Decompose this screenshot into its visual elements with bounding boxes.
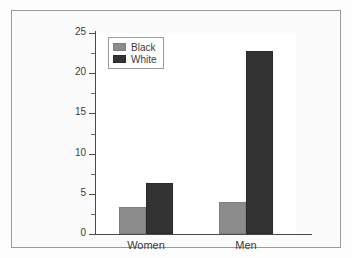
bar-women-black bbox=[119, 207, 146, 234]
y-axis-tick-0: 0 bbox=[12, 234, 95, 235]
y-minor-tick-mark bbox=[91, 93, 95, 94]
y-tick-mark bbox=[89, 33, 95, 34]
y-axis-minor-tick bbox=[12, 174, 95, 175]
y-axis-line bbox=[95, 31, 96, 235]
y-axis-tick-10: 10 bbox=[12, 154, 95, 155]
y-axis-minor-tick bbox=[12, 134, 95, 135]
x-tick-label-men: Men bbox=[206, 239, 286, 252]
chart-legend: BlackWhite bbox=[108, 37, 164, 69]
y-tick-mark bbox=[89, 234, 95, 235]
y-tick-label: 0 bbox=[80, 227, 86, 239]
figure-root: 0510152025 WomenMen BlackWhite bbox=[0, 0, 352, 258]
y-tick-mark bbox=[89, 73, 95, 74]
y-tick-mark bbox=[89, 194, 95, 195]
y-minor-tick-mark bbox=[91, 53, 95, 54]
y-axis-tick-25: 25 bbox=[12, 33, 95, 34]
x-tick-label-women: Women bbox=[106, 239, 186, 252]
y-axis-tick-15: 15 bbox=[12, 113, 95, 114]
y-axis-minor-tick bbox=[12, 214, 95, 215]
y-minor-tick-mark bbox=[91, 134, 95, 135]
y-tick-label: 20 bbox=[75, 66, 86, 78]
y-tick-mark bbox=[89, 154, 95, 155]
y-tick-label: 25 bbox=[75, 26, 86, 38]
y-tick-label: 15 bbox=[75, 106, 86, 118]
bar-men-black bbox=[219, 202, 246, 234]
y-tick-label: 10 bbox=[75, 147, 86, 159]
bar-women-white bbox=[146, 183, 173, 234]
y-tick-label: 5 bbox=[80, 187, 86, 199]
y-tick-mark bbox=[89, 113, 95, 114]
figure-frame: 0510152025 WomenMen BlackWhite bbox=[11, 10, 341, 248]
y-minor-tick-mark bbox=[91, 174, 95, 175]
bar-men-white bbox=[246, 51, 273, 234]
y-axis-minor-tick bbox=[12, 93, 95, 94]
y-axis-tick-20: 20 bbox=[12, 73, 95, 74]
legend-item-black: Black bbox=[113, 41, 157, 53]
legend-swatch-white bbox=[113, 55, 126, 63]
y-minor-tick-mark bbox=[91, 214, 95, 215]
legend-swatch-black bbox=[113, 43, 126, 51]
x-axis-line bbox=[95, 234, 312, 235]
y-axis-minor-tick bbox=[12, 53, 95, 54]
legend-label: White bbox=[131, 54, 157, 65]
y-axis-tick-5: 5 bbox=[12, 194, 95, 195]
legend-label: Black bbox=[131, 42, 155, 53]
legend-item-white: White bbox=[113, 53, 157, 65]
